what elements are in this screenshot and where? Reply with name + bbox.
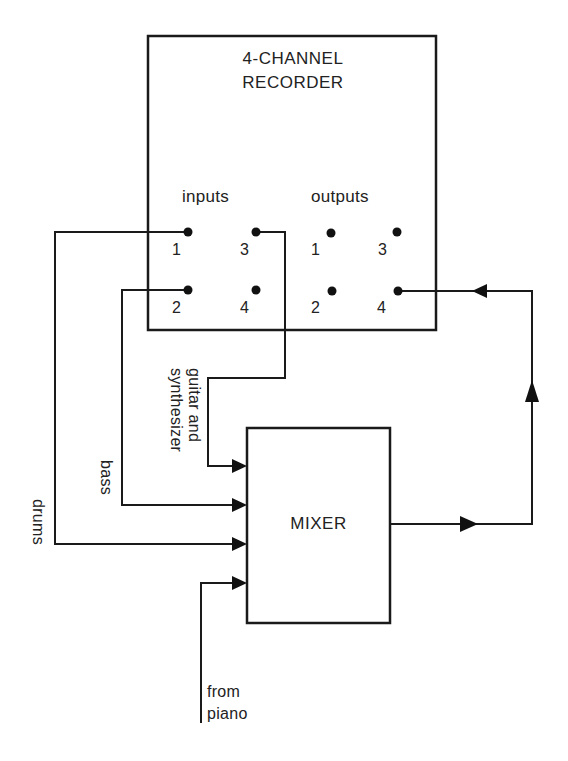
inputs-label: inputs	[182, 188, 229, 205]
output-jack-4	[394, 287, 403, 296]
input-number-3: 3	[240, 242, 249, 258]
input-number-2: 2	[172, 300, 181, 316]
piano-label-line1: from	[207, 684, 240, 700]
bass-label: bass	[97, 460, 115, 495]
input-number-1: 1	[172, 242, 181, 258]
drums-label: drums	[29, 499, 47, 545]
output-number-3: 3	[378, 242, 387, 258]
recorder-title-line2: RECORDER	[148, 71, 438, 95]
arrow-right-icon	[232, 537, 247, 551]
guitar-label-line1: guitar and	[185, 368, 203, 452]
piano-wire	[201, 583, 236, 722]
recorder-title: 4-CHANNEL RECORDER	[148, 47, 438, 95]
bass-label-text: bass	[97, 460, 115, 495]
drums-label-text: drums	[29, 499, 47, 545]
mixer-output-wire	[390, 291, 532, 524]
piano-label-line2: piano	[207, 706, 248, 722]
arrow-right-icon	[232, 459, 247, 473]
output-number-2: 2	[311, 300, 320, 316]
input-jack-3	[252, 228, 261, 237]
output-number-1: 1	[311, 242, 320, 258]
mixer-label: MIXER	[247, 514, 390, 534]
signal-flow-diagram	[0, 0, 568, 761]
arrow-up-icon	[525, 380, 539, 402]
input-jack-4	[252, 286, 261, 295]
arrow-right-icon	[232, 498, 247, 512]
arrow-left-icon	[472, 284, 487, 298]
arrow-right-icon	[460, 516, 478, 532]
input-jack-1	[184, 228, 193, 237]
output-jack-1	[327, 229, 336, 238]
guitar-label-line2: synthesizer	[167, 368, 185, 452]
output-number-4: 4	[377, 300, 386, 316]
input-number-4: 4	[240, 300, 249, 316]
output-jack-2	[328, 287, 337, 296]
input-jack-2	[184, 286, 193, 295]
arrow-right-icon	[232, 576, 247, 590]
recorder-title-line1: 4-CHANNEL	[148, 47, 438, 71]
output-jack-3	[393, 228, 402, 237]
guitar-synth-label: guitar and synthesizer	[167, 368, 203, 452]
outputs-label: outputs	[311, 188, 369, 205]
